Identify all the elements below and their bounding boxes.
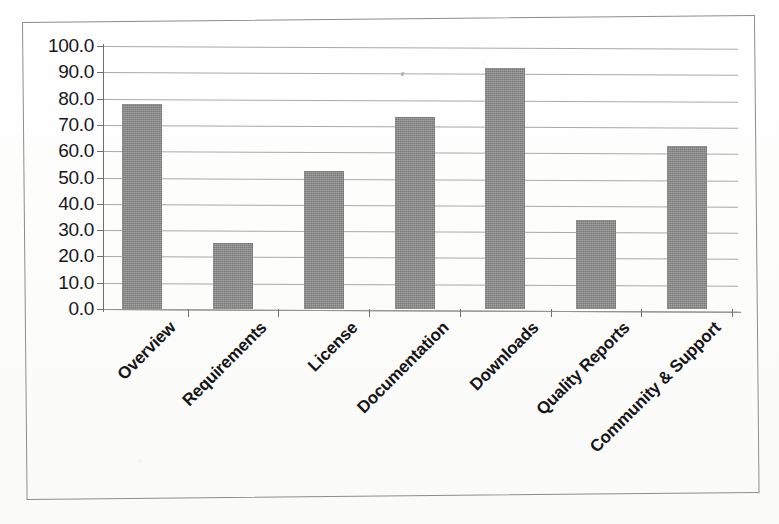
y-axis-label: 20.0: [58, 245, 94, 267]
y-axis-label: 40.0: [58, 193, 94, 215]
x-axis-tick: [278, 309, 279, 317]
y-axis-label: 0.0: [68, 298, 94, 320]
bar[interactable]: [576, 220, 616, 309]
x-axis-tick: [551, 309, 552, 317]
y-axis-tick: [97, 256, 104, 257]
bar[interactable]: [485, 68, 525, 309]
gridline: [103, 99, 738, 103]
gridline: [103, 46, 738, 50]
y-axis-tick: [97, 99, 104, 100]
bar[interactable]: [395, 117, 435, 309]
y-axis-label: 10.0: [58, 272, 94, 294]
y-axis-tick: [97, 204, 104, 205]
y-axis-label: 60.0: [58, 140, 94, 162]
bar[interactable]: [304, 171, 344, 309]
y-axis-label: 70.0: [58, 114, 94, 136]
bar[interactable]: [667, 146, 707, 309]
y-axis-tick: [97, 151, 104, 152]
y-axis-label: 90.0: [58, 61, 94, 83]
y-axis-tick: [97, 309, 104, 310]
y-axis-label: 80.0: [58, 88, 94, 110]
scan-speck: [400, 72, 404, 77]
y-axis-tick: [97, 178, 104, 179]
x-axis-tick: [369, 309, 370, 317]
x-axis-tick: [732, 309, 733, 317]
bar[interactable]: [122, 104, 162, 309]
y-axis-tick: [97, 230, 104, 231]
y-axis-label: 50.0: [58, 167, 94, 189]
y-axis-tick: [97, 72, 104, 73]
x-axis-tick: [641, 309, 642, 317]
plot-area: 100.090.080.070.060.050.040.030.020.010.…: [103, 46, 738, 309]
bar[interactable]: [213, 243, 253, 309]
x-axis-tick: [188, 309, 189, 317]
chart-page: 100.090.080.070.060.050.040.030.020.010.…: [0, 0, 779, 524]
y-axis-tick: [97, 125, 104, 126]
x-axis-tick: [460, 309, 461, 317]
gridline: [103, 72, 738, 76]
y-axis-tick: [97, 46, 104, 47]
y-axis-tick: [97, 283, 104, 284]
y-axis-label: 30.0: [58, 219, 94, 241]
y-axis-label: 100.0: [48, 35, 94, 57]
